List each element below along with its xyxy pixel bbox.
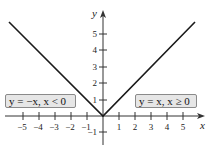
y-tick-label: 3	[93, 62, 98, 72]
y-axis-label: y	[91, 7, 97, 19]
x-tick-label: −4	[33, 122, 43, 132]
x-tick-label: 4	[165, 122, 170, 132]
x-axis-label: x	[199, 119, 205, 131]
y-tick-label: 4	[93, 45, 98, 55]
x-tick-label: 1	[117, 122, 122, 132]
y-tick-label: 1	[93, 95, 98, 105]
y-tick-label: 2	[93, 78, 98, 88]
y-tick-label: 5	[93, 29, 98, 39]
x-tick-label: 3	[149, 122, 154, 132]
x-tick-label: −3	[49, 122, 59, 132]
x-tick-label: −2	[65, 122, 75, 132]
y-tick-label: −1	[87, 127, 97, 137]
left-equation-label: y = −x, x < 0	[5, 94, 76, 108]
x-tick-label: −5	[17, 122, 27, 132]
absolute-value-graph: −5 −4 −3 −2 −1 1 2 3 4 5 5 4 3 2 1 −1 x …	[0, 0, 213, 156]
right-equation-label: y = x, x ≥ 0	[135, 94, 197, 108]
x-tick-label: 5	[181, 122, 186, 132]
x-tick-label: 2	[133, 122, 138, 132]
